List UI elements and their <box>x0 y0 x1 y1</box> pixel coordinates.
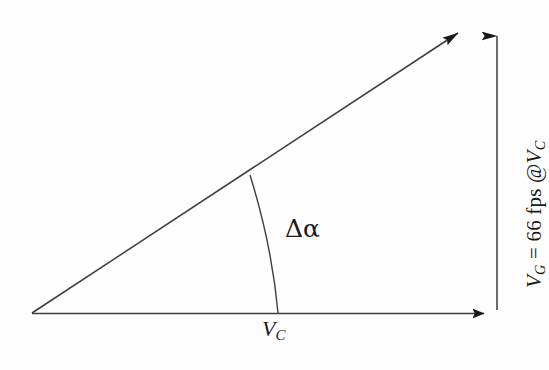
vg-symbol: V <box>522 275 546 288</box>
vg-unit: fps <box>522 188 546 214</box>
vg-value: 66 <box>522 220 546 241</box>
vector-diagram-canvas <box>0 0 549 370</box>
vg-subscript: G <box>532 264 548 275</box>
vc-subscript: C <box>275 327 285 343</box>
vg-ref-subscript: C <box>532 141 548 151</box>
angle-arc <box>250 175 278 313</box>
vg-equals: = <box>522 242 546 265</box>
angle-label-delta-alpha: Δα <box>285 216 320 241</box>
vg-ref-symbol: V <box>522 150 546 163</box>
horizontal-vector-label: VC <box>262 318 285 343</box>
alpha-symbol: α <box>303 214 320 243</box>
vc-symbol: V <box>262 316 275 341</box>
delta-symbol: Δ <box>285 214 303 243</box>
resultant-vector-line <box>32 33 458 313</box>
vg-at-symbol: @ <box>522 163 546 188</box>
resultant-vector-label: VG = 66 fps @VC <box>524 141 547 288</box>
vector-diagram: Δα VC VG = 66 fps @VC <box>0 0 549 370</box>
